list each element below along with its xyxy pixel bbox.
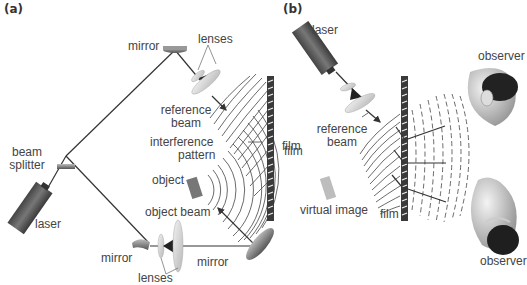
label-mirror-top: mirror (128, 40, 159, 53)
panel-b-tag: (b) (283, 2, 303, 16)
label-film-b-bottom: film (380, 208, 399, 221)
observer-rays (392, 126, 446, 202)
label-observer-top: observer (478, 50, 525, 63)
label-observer-bottom: observer (480, 255, 527, 268)
mirror-top-icon (163, 46, 187, 53)
panel-a-tag: (a) (4, 2, 23, 16)
label-virtual-image: virtual image (300, 204, 368, 217)
film-a-icon (267, 76, 274, 221)
observer-top-icon (468, 68, 518, 126)
label-reference-beam-b-2: beam (314, 136, 370, 149)
mirror-bottom-left-icon (132, 239, 150, 250)
label-mirror-bottom-left: mirror (101, 252, 132, 265)
label-film-b-left: film (282, 140, 301, 153)
label-object-beam: object beam (145, 206, 210, 219)
label-mirror-bottom-right: mirror (197, 256, 228, 269)
object-icon (186, 177, 203, 199)
reference-wavefronts (210, 74, 268, 196)
label-beam-splitter-2: splitter (2, 159, 52, 172)
label-laser-b: laser (312, 24, 338, 37)
film-b-icon (401, 76, 408, 221)
label-object: object (152, 174, 184, 187)
observer-bottom-icon (471, 177, 519, 255)
beam-splitter-icon (57, 164, 75, 169)
lenses-b-icon (339, 81, 377, 115)
label-reference-beam-a-2: beam (160, 117, 212, 130)
virtual-image-icon (320, 176, 336, 200)
label-lenses-bottom: lenses (138, 272, 173, 285)
label-laser-a: laser (35, 218, 61, 231)
reconstructed-wavefronts (412, 94, 469, 222)
label-interference-2: pattern (178, 149, 215, 162)
lenses-top-icon (189, 45, 223, 97)
lenses-bottom-icon (158, 220, 183, 274)
mirror-bottom-right-icon (242, 224, 278, 264)
label-lenses-top: lenses (198, 33, 233, 46)
